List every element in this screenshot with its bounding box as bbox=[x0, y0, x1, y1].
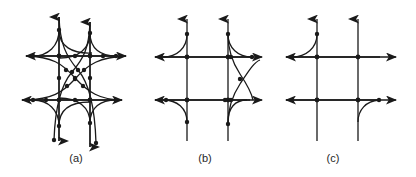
panel-c-axes bbox=[286, 19, 396, 141]
panel-c-graphic bbox=[286, 19, 396, 141]
panel-label-c: (c) bbox=[313, 152, 353, 164]
panel-b-graphic bbox=[155, 19, 262, 141]
panel-b-axes bbox=[155, 19, 262, 141]
figure-diagram bbox=[0, 0, 416, 177]
panel-a-graphic bbox=[22, 17, 126, 147]
panel-b-nodes bbox=[164, 32, 254, 126]
panel-c-branches bbox=[292, 34, 379, 122]
panel-b-branches bbox=[163, 34, 260, 124]
panel-label-b: (b) bbox=[185, 152, 225, 164]
figure-container: (a) (b) (c) bbox=[0, 0, 416, 177]
panel-a-nodes bbox=[31, 28, 118, 145]
panel-label-a: (a) bbox=[56, 152, 96, 164]
panel-c-nodes bbox=[315, 32, 382, 103]
panel-a-axes bbox=[22, 17, 126, 147]
